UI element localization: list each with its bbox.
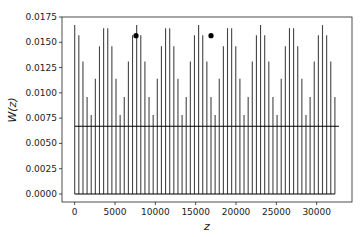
y-tick-label: 0.0100 (26, 88, 58, 98)
y-tick-label: 0.0025 (26, 164, 58, 174)
stem-chart: 050001000015000200002500030000 0.00000.0… (0, 0, 362, 237)
x-tick-label: 5000 (104, 207, 127, 217)
marker-dot (133, 33, 138, 38)
stem-series (75, 25, 335, 194)
y-tick-label: 0.0075 (26, 113, 58, 123)
x-axis-ticks: 050001000015000200002500030000 (72, 202, 331, 217)
y-tick-label: 0.0050 (26, 138, 58, 148)
y-axis-ticks: 0.00000.00250.00500.00750.01000.01250.01… (26, 12, 63, 199)
y-tick-label: 0.0125 (26, 63, 58, 73)
y-tick-label: 0.0000 (26, 189, 58, 199)
x-tick-label: 20000 (222, 207, 251, 217)
y-tick-label: 0.0175 (26, 12, 58, 22)
x-tick-label: 25000 (262, 207, 291, 217)
highlight-markers (133, 33, 213, 38)
x-tick-label: 15000 (181, 207, 210, 217)
x-axis-label: z (203, 220, 210, 233)
x-tick-label: 10000 (141, 207, 170, 217)
marker-dot (208, 33, 213, 38)
x-tick-label: 30000 (302, 207, 331, 217)
y-tick-label: 0.0150 (26, 37, 58, 47)
x-tick-label: 0 (72, 207, 78, 217)
y-axis-label: W(z) (6, 97, 19, 122)
